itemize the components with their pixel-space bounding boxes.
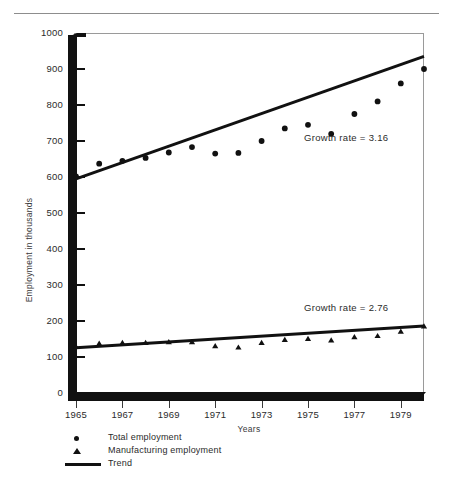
legend-item-label: Manufacturing employment [108, 445, 221, 455]
data-point-triangle [212, 343, 218, 348]
data-point-circle [120, 158, 126, 164]
legend-item: Trend [62, 458, 322, 471]
legend-item-label: Trend [108, 458, 132, 468]
data-point-circle [328, 131, 334, 137]
legend-item-label: Total employment [108, 432, 182, 442]
data-point-triangle [375, 333, 381, 338]
data-point-triangle [398, 329, 404, 334]
data-point-circle [143, 155, 149, 161]
trend-line [76, 56, 424, 178]
data-point-triangle [305, 336, 311, 341]
trend-line [76, 326, 424, 348]
data-point-triangle [119, 340, 125, 345]
chart-legend: Total employmentManufacturing employment… [62, 432, 322, 471]
data-point-circle [375, 99, 381, 105]
data-point-circle [166, 150, 172, 156]
data-point-circle [421, 66, 427, 72]
data-point-triangle [282, 337, 288, 342]
data-point-triangle [351, 334, 357, 339]
circle-marker-icon [74, 436, 79, 441]
data-point-circle [189, 144, 195, 150]
data-point-circle [96, 161, 102, 167]
trend-line-icon [65, 463, 101, 466]
data-point-triangle [259, 340, 265, 345]
data-point-circle [305, 122, 311, 128]
data-point-circle [73, 173, 79, 179]
triangle-marker-icon [73, 448, 81, 454]
data-point-circle [212, 151, 218, 157]
data-point-triangle [96, 340, 102, 345]
data-point-triangle [328, 337, 334, 342]
data-point-circle [236, 150, 242, 156]
data-point-circle [259, 138, 265, 144]
legend-item: Manufacturing employment [62, 445, 322, 458]
data-point-circle [282, 125, 288, 131]
chart-data-layer [0, 0, 453, 490]
data-point-circle [352, 111, 358, 117]
data-point-triangle [235, 344, 241, 349]
legend-item: Total employment [62, 432, 322, 445]
data-point-circle [398, 81, 404, 87]
figure-container: 01002003004005006007008009001000 1965196… [0, 0, 453, 490]
